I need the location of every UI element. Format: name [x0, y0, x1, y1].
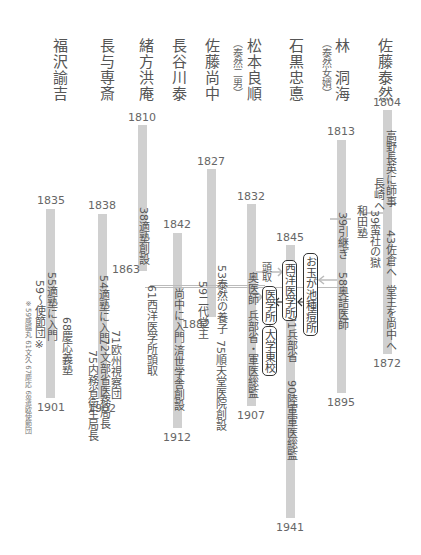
event-okuzume: 58奥詰医師	[336, 272, 348, 330]
event-sakura: 43佐倉へ	[384, 230, 396, 277]
event-hikitsugi: 39引継ぎ	[336, 212, 348, 259]
event-ishiguro-71: 71兵部省	[285, 315, 297, 362]
box-otamagaike: お玉が池種痘所	[303, 253, 318, 336]
event-saisei: 済世学舎創設	[172, 345, 184, 411]
event-keio: 68慶応義塾	[60, 317, 72, 375]
box-igakusho: 医学所	[262, 286, 277, 325]
event-bansha: 39蛮社の獄	[368, 210, 380, 268]
event-naimu: 75内務省衛生局長	[86, 350, 98, 441]
event-naonaka-nyumon: 尚中に入門	[172, 288, 184, 343]
event-nidai: 59二代堂主	[196, 281, 208, 339]
event-yoshi: 53泰然の養子	[215, 265, 227, 334]
box-daigaku: 大学東校	[262, 326, 277, 376]
event-tekijuku: 38適塾創設	[137, 207, 149, 265]
event-okui: 奥医師	[246, 272, 258, 305]
event-juntendo: 75順天堂医院創設	[214, 340, 226, 431]
event-shisetsu: 59〜使節団※	[33, 280, 45, 351]
event-ishiguro-90: 90陸軍軍医総監	[285, 380, 297, 460]
event-monbu: 72文部省医務局長	[98, 338, 110, 429]
event-seiyo-tori: 61西洋医学所頭取	[145, 285, 157, 376]
event-takano: 高野長英に師事	[384, 130, 396, 207]
event-wadajuku: 和田塾	[355, 205, 367, 238]
event-nagasaki: 長崎へ	[372, 178, 384, 211]
event-tori: 頭取	[260, 262, 271, 282]
event-hyobu-gun: 兵部省・軍医総監	[246, 310, 258, 398]
connector-arrows	[0, 0, 421, 555]
event-fukuzawa-55: 55適塾に入門	[45, 272, 57, 341]
event-note: ※59咸臨丸 61文久 67慶応 68遣欧使節団	[24, 300, 31, 434]
box-seiyo: 西洋医学所	[282, 260, 297, 321]
event-nagayo-54: 54適塾に入門	[97, 275, 109, 344]
event-domei: 堂主を尚中へ	[384, 285, 396, 351]
